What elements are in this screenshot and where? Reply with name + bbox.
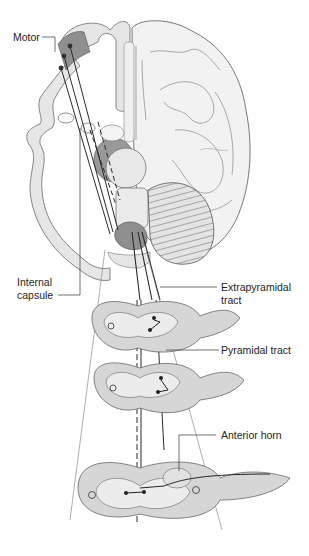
- spinal-section-1: [92, 301, 240, 352]
- label-internal-capsule-line1: Internal: [17, 276, 52, 288]
- spinal-section-2: [94, 363, 244, 413]
- label-extrapyramidal-line2: tract: [221, 294, 241, 306]
- label-extrapyramidal-line1: Extrapyramidal: [221, 281, 291, 293]
- label-pyramidal-tract: Pyramidal tract: [221, 344, 291, 356]
- label-motor: Motor: [13, 31, 40, 43]
- spinal-section-3: [78, 462, 290, 518]
- label-anterior-horn: Anterior horn: [221, 429, 282, 441]
- label-internal-capsule-line2: capsule: [17, 289, 53, 301]
